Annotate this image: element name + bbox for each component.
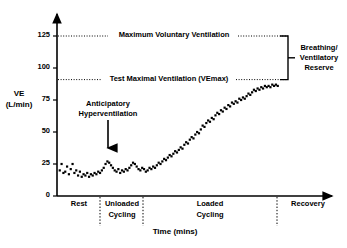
data-point	[277, 85, 279, 87]
data-point	[194, 133, 196, 135]
data-point	[233, 103, 235, 105]
data-point	[183, 144, 185, 146]
data-point	[71, 163, 73, 165]
phase-label-loaded-line1: Loaded	[175, 200, 245, 208]
data-point	[213, 118, 215, 120]
data-point	[189, 139, 191, 141]
y-tick-label-25: 25	[28, 159, 50, 167]
phase-label-rest: Rest	[58, 200, 100, 208]
y-tick-label-100: 100	[28, 63, 50, 71]
data-point	[172, 153, 174, 155]
data-point	[161, 160, 163, 162]
data-point	[167, 157, 169, 159]
data-point	[225, 108, 227, 110]
phase-label-recovery: Recovery	[280, 200, 336, 208]
anticipatory-label-line2: Hyperventilation	[57, 110, 159, 118]
data-point	[95, 173, 97, 175]
data-point	[126, 169, 128, 171]
data-point	[134, 163, 136, 165]
data-point	[187, 142, 189, 144]
y-tick-label-50: 50	[28, 127, 50, 135]
data-point	[75, 169, 77, 171]
data-point	[229, 105, 231, 107]
data-point	[192, 137, 194, 139]
y-tick-label-0: 0	[28, 191, 50, 199]
data-point	[64, 171, 66, 173]
data-point	[178, 149, 180, 151]
data-point	[103, 167, 105, 169]
data-point	[73, 172, 75, 174]
data-point	[88, 176, 90, 178]
x-axis-title: Time (mins)	[130, 228, 220, 237]
data-point	[66, 165, 68, 167]
phase-label-loaded-line2: Cycling	[175, 211, 245, 219]
mvv-label: Maximum Voluntary Ventilation	[108, 31, 240, 39]
data-point	[136, 165, 138, 167]
data-point	[205, 122, 207, 124]
data-point	[159, 163, 161, 165]
phase-label-unloaded-line2: Cycling	[101, 211, 143, 219]
phase-label-unloaded-line1: Unloaded	[101, 200, 143, 208]
data-point	[258, 89, 260, 91]
anticipatory-label-line1: Anticipatory	[60, 100, 156, 108]
data-point	[147, 169, 149, 171]
data-point	[198, 132, 200, 134]
data-point	[209, 121, 211, 123]
data-point	[143, 168, 145, 170]
data-point	[86, 172, 88, 174]
data-point	[249, 94, 251, 96]
data-point	[77, 174, 79, 176]
data-point	[236, 101, 238, 103]
ventilatory-reserve-label-line3: Reserve	[291, 64, 347, 72]
data-point	[200, 128, 202, 130]
data-point	[115, 171, 117, 173]
data-point	[112, 167, 114, 169]
data-point	[81, 176, 83, 178]
data-point	[244, 98, 246, 100]
data-point	[123, 171, 125, 173]
data-point	[218, 113, 220, 115]
data-point	[156, 164, 158, 166]
data-point	[70, 168, 72, 170]
data-point-group	[59, 84, 279, 178]
data-point	[176, 151, 178, 153]
data-point	[203, 126, 205, 128]
data-point	[110, 164, 112, 166]
y-tick-label-125: 125	[28, 31, 50, 39]
exercise-ventilation-chart: 0 25 50 75 100 125 VE (L/min) Maximum Vo…	[0, 0, 347, 248]
data-point	[181, 148, 183, 150]
y-axis-title-line1: VE	[5, 90, 33, 99]
data-point	[92, 174, 94, 176]
data-point	[214, 114, 216, 116]
ventilatory-reserve-label-line2: Ventilatory	[291, 54, 347, 62]
data-point	[119, 172, 121, 174]
ventilatory-reserve-label-line1: Breathing/	[291, 44, 347, 52]
data-point	[104, 163, 106, 165]
data-point	[222, 110, 224, 112]
data-point	[246, 95, 248, 97]
data-point	[262, 87, 264, 89]
y-axis-title-line2: (L/min)	[1, 101, 37, 110]
data-point	[165, 159, 167, 161]
data-point	[255, 90, 257, 92]
vemax-label: Test Maximal Ventilation (VEmax)	[100, 75, 238, 83]
data-point	[128, 167, 130, 169]
data-point	[99, 172, 101, 174]
data-point	[101, 169, 103, 171]
data-point	[251, 91, 253, 93]
data-point	[79, 171, 81, 173]
data-point	[154, 167, 156, 169]
data-point	[130, 164, 132, 166]
data-point	[108, 162, 110, 164]
data-point	[139, 169, 141, 171]
data-point	[150, 168, 152, 170]
data-point	[84, 174, 86, 176]
data-point	[269, 86, 271, 88]
data-point	[170, 155, 172, 157]
data-point	[59, 169, 61, 171]
data-point	[240, 99, 242, 101]
data-point	[117, 168, 119, 170]
data-point	[68, 173, 70, 175]
data-point	[60, 163, 62, 165]
